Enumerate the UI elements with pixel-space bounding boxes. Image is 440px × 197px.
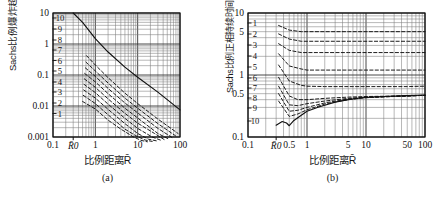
svg-text:10: 10: [40, 8, 50, 18]
panel-a-ylabel: Sachs比例爆炸超压: [5, 0, 19, 88]
panel-b-caption: (b): [225, 172, 440, 183]
svg-text:0.1: 0.1: [37, 70, 49, 80]
panel-a-caption: (a): [0, 172, 215, 183]
svg-text:50: 50: [402, 140, 412, 150]
svg-text:1: 1: [93, 140, 98, 150]
panel-a-xlabel: 比例距离R̄: [0, 152, 215, 167]
panel-b: Sachs比例正相持续时间（无量纲） 0.10.515105010010510.…: [215, 0, 440, 197]
svg-text:0.001: 0.001: [28, 132, 50, 142]
svg-text:4: 4: [253, 51, 258, 61]
svg-text:4: 4: [58, 77, 63, 87]
svg-text:10: 10: [361, 140, 371, 150]
svg-text:6: 6: [58, 56, 63, 66]
svg-text:9: 9: [58, 24, 62, 34]
panel-a-plot: 0.11101001010.10.010.001R̄010987654321: [0, 0, 215, 150]
svg-text:5: 5: [253, 62, 257, 72]
svg-text:1: 1: [44, 39, 49, 49]
svg-text:5: 5: [239, 27, 244, 37]
svg-text:3: 3: [253, 40, 257, 50]
svg-text:0.1: 0.1: [232, 132, 244, 142]
svg-text:9: 9: [253, 103, 257, 113]
svg-text:7: 7: [253, 83, 258, 93]
svg-text:1: 1: [239, 70, 244, 80]
svg-text:5: 5: [346, 140, 351, 150]
svg-text:0.01: 0.01: [32, 101, 49, 111]
svg-text:10: 10: [133, 140, 143, 150]
svg-text:0.5: 0.5: [283, 140, 295, 150]
svg-text:5: 5: [58, 66, 62, 76]
panel-b-xlabel: 比例距离R̄: [225, 152, 440, 167]
svg-text:100: 100: [418, 140, 433, 150]
svg-text:100: 100: [173, 140, 188, 150]
svg-text:6: 6: [253, 73, 258, 83]
svg-text:10: 10: [251, 116, 260, 126]
svg-text:1: 1: [58, 109, 62, 119]
figure-root: Sachs比例爆炸超压 0.11101001010.10.010.001R̄01…: [0, 0, 440, 197]
svg-text:3: 3: [58, 87, 62, 97]
svg-text:2: 2: [58, 98, 62, 108]
svg-text:R̄0: R̄0: [67, 141, 79, 150]
svg-text:2: 2: [253, 29, 257, 39]
svg-text:8: 8: [58, 35, 62, 45]
svg-text:7: 7: [58, 45, 63, 55]
panel-b-plot: 0.10.515105010010510.50.1R̄012345678910: [215, 0, 440, 150]
svg-text:8: 8: [253, 93, 257, 103]
panel-a: Sachs比例爆炸超压 0.11101001010.10.010.001R̄01…: [0, 0, 215, 197]
svg-text:1: 1: [253, 18, 257, 28]
panel-b-ylabel: Sachs比例正相持续时间（无量纲）: [223, 0, 237, 93]
svg-text:10: 10: [56, 13, 65, 23]
svg-text:1: 1: [305, 140, 310, 150]
svg-text:R̄0: R̄0: [270, 141, 282, 150]
